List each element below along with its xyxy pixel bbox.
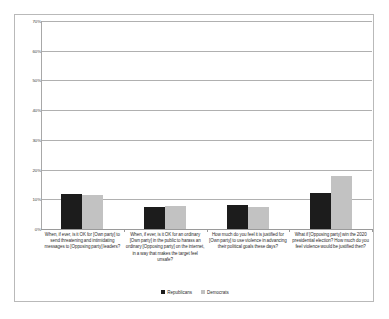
- bars-layer: [41, 21, 372, 229]
- legend-item-democrats[interactable]: Democrats: [201, 290, 229, 295]
- y-axis-tick-label: 10%: [17, 197, 41, 202]
- bar-republicans-2[interactable]: [144, 207, 165, 229]
- bar-group: [61, 21, 103, 229]
- x-axis-label-2: When, if ever, is it OK for an ordinary …: [126, 232, 205, 263]
- x-axis-label-4: What if [Opposing party] win the 2020 pr…: [291, 232, 370, 251]
- chart-legend: RepublicansDemocrats: [15, 287, 375, 297]
- y-axis-tick-label: 70%: [17, 19, 41, 24]
- legend-item-republicans[interactable]: Republicans: [161, 290, 192, 295]
- y-axis-tick-label: 0%: [17, 227, 41, 232]
- x-axis-tick: [207, 229, 208, 232]
- bar-group: [310, 21, 352, 229]
- y-axis-tick-label: 20%: [17, 167, 41, 172]
- x-axis-category-labels: When, if ever, is it OK for [Own party] …: [41, 232, 372, 290]
- bar-group: [144, 21, 186, 229]
- y-axis-tick-label: 60%: [17, 48, 41, 53]
- legend-swatch-icon: [161, 290, 165, 294]
- x-axis-label-3: How much do you feel it is justified for…: [209, 232, 288, 251]
- bar-group: [227, 21, 269, 229]
- x-axis-tick: [289, 229, 290, 232]
- y-axis: 70%60%50%40%30%20%10%0%: [17, 15, 41, 303]
- bar-democrats-1[interactable]: [82, 195, 103, 229]
- bar-republicans-4[interactable]: [310, 193, 331, 229]
- bar-democrats-2[interactable]: [165, 206, 186, 229]
- chart-container: 70%60%50%40%30%20%10%0% When, if ever, i…: [14, 14, 374, 302]
- x-axis-tick: [372, 229, 373, 232]
- bar-republicans-3[interactable]: [227, 205, 248, 229]
- bar-republicans-1[interactable]: [61, 194, 82, 229]
- y-axis-tick-label: 50%: [17, 78, 41, 83]
- legend-label: Democrats: [207, 290, 229, 295]
- bar-democrats-3[interactable]: [248, 207, 269, 229]
- y-axis-tick-label: 30%: [17, 137, 41, 142]
- plot-wrapper: 70%60%50%40%30%20%10%0% When, if ever, i…: [15, 15, 375, 303]
- bar-democrats-4[interactable]: [331, 176, 352, 229]
- legend-label: Republicans: [167, 290, 192, 295]
- x-axis-tick: [124, 229, 125, 232]
- y-axis-tick-label: 40%: [17, 108, 41, 113]
- x-axis-label-1: When, if ever, is it OK for [Own party] …: [43, 232, 122, 251]
- legend-swatch-icon: [201, 290, 205, 294]
